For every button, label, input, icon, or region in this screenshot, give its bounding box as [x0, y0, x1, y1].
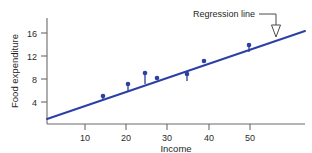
- data-point: [202, 59, 207, 64]
- y-tick-label-8: 8: [32, 75, 37, 85]
- x-tick-label-10: 10: [80, 133, 90, 143]
- annotation-arrow-icon: [272, 25, 281, 37]
- data-point: [155, 76, 160, 81]
- axes-group: [47, 18, 305, 124]
- x-tick-label-20: 20: [121, 133, 131, 143]
- y-tick-label-16: 16: [27, 29, 37, 39]
- regression-line-annotation: Regression line: [193, 9, 281, 37]
- regression-scatter-chart: 16 12 8 4 10 20 30 40 50 Income Food exp…: [0, 0, 312, 153]
- x-tick-label-30: 30: [162, 133, 172, 143]
- x-axis-tick-labels: 10 20 30 40 50: [80, 133, 255, 143]
- x-axis-title: Income: [160, 143, 191, 153]
- chart-svg: 16 12 8 4 10 20 30 40 50 Income Food exp…: [0, 0, 312, 153]
- y-axis-ticks: [41, 33, 47, 102]
- data-point: [101, 94, 106, 99]
- y-axis-title: Food expenditure: [9, 34, 20, 108]
- data-point: [185, 72, 190, 77]
- y-tick-label-4: 4: [32, 98, 37, 108]
- data-point: [143, 71, 148, 76]
- regression-line: [47, 31, 305, 119]
- data-point: [247, 43, 252, 48]
- annotation-label: Regression line: [193, 9, 255, 19]
- data-points-group: [101, 43, 252, 99]
- y-tick-label-12: 12: [27, 52, 37, 62]
- data-point: [126, 82, 131, 87]
- y-axis-tick-labels: 16 12 8 4: [27, 29, 37, 108]
- x-tick-label-50: 50: [245, 133, 255, 143]
- x-tick-label-40: 40: [204, 133, 214, 143]
- x-axis-ticks: [85, 124, 250, 130]
